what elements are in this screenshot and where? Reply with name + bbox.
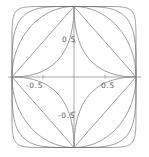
y-axis-tick-label-positive: 0.5: [62, 36, 76, 43]
x-axis-tick-label-positive: 0.5: [101, 82, 115, 89]
superellipse-plot-figure: 0.5 -0.5 -0.5 0.5: [0, 0, 149, 157]
y-axis-tick-label-negative: -0.5: [58, 112, 75, 119]
axes-group: [8, 6, 141, 148]
x-axis-tick-label-negative: -0.5: [26, 82, 43, 89]
plot-canvas: [0, 0, 149, 157]
